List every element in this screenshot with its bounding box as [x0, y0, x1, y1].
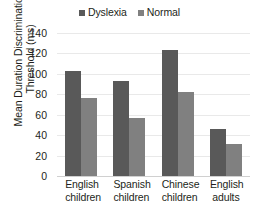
x-axis-tick-label-line: children — [162, 191, 194, 204]
x-axis-tick-label-line: children — [113, 191, 145, 204]
bar-groups — [57, 33, 250, 176]
x-axis-tick-labels: EnglishchildrenSpanishchildrenChinesechi… — [57, 178, 250, 203]
y-axis-tick-label: 80 — [35, 89, 47, 100]
legend-swatch-normal — [138, 10, 144, 16]
x-axis-tick-label: Chinesechildren — [162, 178, 194, 203]
x-axis-tick-label-line: English — [65, 178, 97, 191]
legend-swatch-dyslexia — [79, 10, 85, 16]
bar-group — [162, 33, 194, 176]
bar-dyslexia — [113, 81, 129, 176]
x-axis-tick-label-line: adults — [210, 191, 242, 204]
y-axis-tick-label: 40 — [35, 130, 47, 141]
y-axis-tick-label: 0 — [41, 171, 47, 182]
bar-dyslexia — [65, 71, 81, 176]
bar-group — [65, 33, 97, 176]
bar-dyslexia — [162, 50, 178, 176]
y-axis-tick-label: 60 — [35, 109, 47, 120]
legend-item-dyslexia: Dyslexia — [79, 7, 127, 18]
x-axis-tick-label-line: Spanish — [113, 178, 145, 191]
bar-chart: Dyslexia Normal Mean Duration Discrimina… — [0, 0, 259, 218]
gridline — [57, 176, 250, 177]
legend-label-normal: Normal — [147, 7, 180, 18]
y-axis-tick-label: 120 — [29, 48, 47, 59]
x-axis-tick-label-line: children — [65, 191, 97, 204]
x-axis-tick-label-line: English — [210, 178, 242, 191]
legend-label-dyslexia: Dyslexia — [88, 7, 127, 18]
x-axis-tick-label: Spanishchildren — [113, 178, 145, 203]
legend-item-normal: Normal — [138, 7, 180, 18]
bar-normal — [178, 92, 194, 176]
y-axis-tick-label: 140 — [29, 28, 47, 39]
bar-normal — [129, 118, 145, 176]
bar-normal — [226, 144, 242, 176]
x-axis-tick-label: Englishchildren — [65, 178, 97, 203]
y-axis-tick-label: 100 — [29, 68, 47, 79]
bar-group — [210, 33, 242, 176]
x-axis-tick-label: Englishadults — [210, 178, 242, 203]
y-axis-tick-labels: 020406080100120140 — [0, 33, 52, 176]
plot-area — [57, 33, 250, 176]
x-axis-tick-label-line: Chinese — [162, 178, 194, 191]
y-axis-tick-label: 20 — [35, 150, 47, 161]
bar-dyslexia — [210, 129, 226, 176]
bar-group — [113, 33, 145, 176]
bar-normal — [81, 98, 97, 176]
